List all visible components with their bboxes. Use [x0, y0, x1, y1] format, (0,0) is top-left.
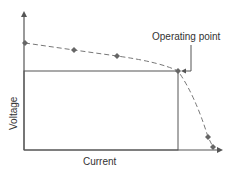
annotation-leader — [184, 45, 191, 71]
y-axis-label: Voltage — [8, 96, 19, 130]
annotation-label: Operating point — [152, 31, 221, 42]
power-rectangle — [24, 71, 178, 150]
y-axis-arrow-icon — [21, 11, 27, 17]
annotation-arrow-icon — [181, 69, 186, 74]
iv-curve-diagram: Operating point Current Voltage — [0, 0, 233, 173]
x-axis-arrow-icon — [217, 147, 223, 153]
data-markers — [22, 40, 216, 150]
iv-curve — [25, 43, 213, 147]
x-axis-label: Current — [83, 156, 117, 167]
